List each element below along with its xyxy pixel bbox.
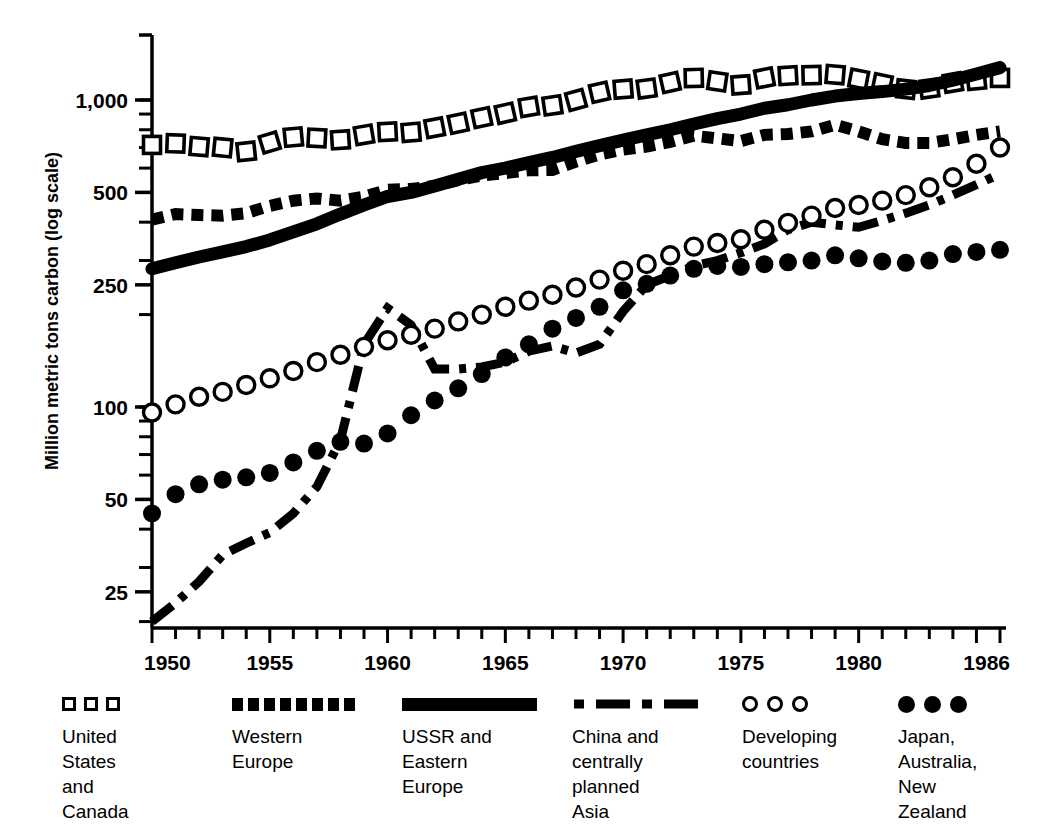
data-point-marker [426, 391, 444, 409]
data-point-marker [708, 257, 726, 275]
legend-label: Western Europe [232, 724, 382, 774]
open-circle-swatch [742, 692, 892, 716]
chart-series-group [143, 65, 1009, 621]
data-point-marker [425, 118, 445, 138]
data-point-marker [615, 262, 632, 279]
data-point-marker [968, 155, 985, 172]
data-point-marker [403, 326, 420, 343]
data-point-marker [308, 442, 326, 460]
data-point-marker [662, 247, 679, 264]
data-point-marker [354, 125, 374, 145]
y-axis-tick-labels: 1,0005002501005025 [75, 89, 128, 604]
data-point-marker [497, 298, 514, 315]
y-axis-tick-label: 1,000 [75, 89, 128, 112]
dash-icon [296, 698, 307, 711]
x-axis-tick-label: 1950 [144, 651, 191, 674]
data-point-marker [450, 313, 467, 330]
data-point-marker [897, 254, 915, 272]
data-point-marker [331, 131, 349, 149]
legend-item-3[interactable]: China and centrally planned Asia [572, 692, 722, 824]
data-point-marker [190, 475, 208, 493]
data-point-marker [920, 252, 938, 270]
data-point-marker [237, 142, 256, 161]
data-point-marker [496, 348, 514, 366]
data-point-marker [685, 69, 702, 86]
data-point-marker [379, 424, 397, 442]
data-point-marker [567, 309, 585, 327]
data-point-marker [402, 406, 420, 424]
series-4 [144, 139, 1009, 421]
data-point-marker [190, 137, 208, 155]
data-point-marker [284, 128, 303, 147]
data-point-marker [144, 136, 161, 153]
data-point-marker [614, 281, 632, 299]
data-point-marker [448, 113, 468, 133]
data-point-marker [402, 123, 420, 141]
open-circle-icon [792, 696, 808, 712]
dash-icon [264, 698, 275, 711]
data-point-marker [967, 243, 985, 261]
data-point-marker [356, 338, 373, 355]
filled-circle-icon [898, 696, 915, 713]
data-point-marker [803, 207, 820, 224]
open-square-icon [106, 697, 120, 711]
legend-item-0[interactable]: United States and Canada [62, 692, 212, 824]
dash-icon [312, 698, 323, 711]
data-point-marker [449, 379, 467, 397]
data-point-marker [495, 103, 515, 123]
data-point-marker [850, 196, 867, 213]
data-point-marker [827, 199, 844, 216]
data-point-marker [661, 267, 679, 285]
data-point-marker [213, 138, 232, 157]
data-point-marker [638, 256, 655, 273]
legend-label: Developing countries [742, 724, 892, 774]
open-square-icon [84, 697, 98, 711]
data-point-marker [779, 67, 797, 85]
legend-item-4[interactable]: Developing countries [742, 692, 892, 774]
dash-icon [280, 698, 291, 711]
legend-item-5[interactable]: Japan, Australia, New Zealand [898, 692, 1048, 824]
x-axis-tick-label: 1970 [600, 651, 647, 674]
x-axis-tick-label: 1960 [364, 651, 411, 674]
data-point-marker [638, 275, 656, 293]
data-point-marker [637, 79, 656, 98]
data-point-marker [803, 66, 820, 83]
dash-dot-icon [572, 696, 712, 712]
data-point-marker [992, 139, 1009, 156]
dash-icon [344, 698, 355, 711]
data-point-marker [285, 362, 302, 379]
data-point-marker [826, 246, 844, 264]
data-point-marker [214, 471, 232, 489]
data-point-marker [803, 252, 821, 270]
x-axis-tick-label: 1986 [963, 651, 1010, 674]
data-point-marker [259, 132, 280, 153]
data-point-marker [591, 271, 608, 288]
legend-item-1[interactable]: Western Europe [232, 692, 382, 774]
data-point-marker [308, 354, 325, 371]
data-point-marker [379, 123, 397, 141]
data-point-marker [144, 404, 161, 421]
y-axis-tick-label: 100 [93, 396, 128, 419]
data-point-marker [261, 464, 279, 482]
legend-item-2[interactable]: USSR and Eastern Europe [402, 692, 552, 799]
data-point-marker [589, 82, 609, 102]
data-point-marker [473, 306, 490, 323]
data-point-marker [191, 388, 208, 405]
open-circle-icon [742, 696, 758, 712]
data-point-marker [237, 468, 255, 486]
data-point-marker [685, 260, 703, 278]
x-axis-tick-label: 1955 [246, 651, 293, 674]
data-point-marker [473, 365, 491, 383]
solid-line-icon [402, 698, 537, 711]
chart-figure: 1,0005002501005025 195019551960196519701… [0, 0, 1059, 835]
data-point-marker [379, 332, 396, 349]
data-point-marker [568, 279, 585, 296]
data-point-marker [261, 370, 278, 387]
data-point-marker [519, 97, 539, 117]
x-axis-tick-label: 1980 [835, 651, 882, 674]
data-point-marker [566, 90, 587, 111]
data-point-marker [331, 433, 349, 451]
data-point-marker [732, 258, 750, 276]
data-point-marker [732, 231, 749, 248]
data-point-marker [472, 108, 492, 128]
